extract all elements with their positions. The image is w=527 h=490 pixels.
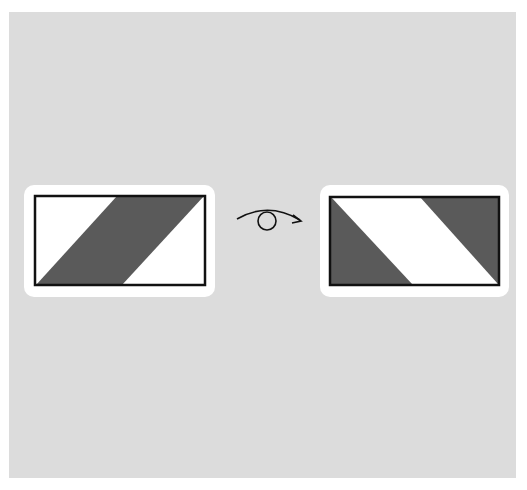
right-rectangle [330,197,499,285]
left-rectangle [35,196,205,285]
diagram-svg [0,0,527,490]
rotate-flip-arrow-icon [237,210,301,230]
